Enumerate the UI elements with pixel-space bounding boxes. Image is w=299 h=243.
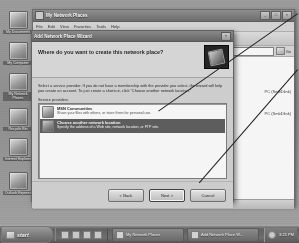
window-controls: _ □ × xyxy=(260,11,292,20)
menu-item-favorites[interactable]: Favorites xyxy=(74,24,91,29)
desktop-icon-my-network-places[interactable]: My Network Places xyxy=(3,73,33,101)
outlook-express-icon xyxy=(9,172,28,190)
start-button[interactable]: start xyxy=(1,226,53,243)
quick-launch-bar[interactable] xyxy=(55,228,108,241)
minimize-button[interactable]: _ xyxy=(260,11,270,20)
my-computer-icon xyxy=(9,42,28,60)
msn-butterfly-icon xyxy=(42,106,54,118)
menu-item-help[interactable]: Help xyxy=(111,24,120,29)
explorer-titlebar[interactable]: My Network Places _ □ × xyxy=(33,10,294,22)
next-button[interactable]: Next > xyxy=(149,189,185,202)
desktop-icon-recycle-bin[interactable]: Recycle Bin xyxy=(3,108,33,131)
go-button[interactable]: Go xyxy=(276,47,291,55)
quick-launch-icon[interactable] xyxy=(94,231,102,239)
my-network-places-icon xyxy=(9,73,28,91)
maximize-button[interactable]: □ xyxy=(271,11,281,20)
recycle-bin-icon xyxy=(9,108,28,126)
taskbar-button-label: My Network Places xyxy=(126,232,160,237)
quick-launch-icon[interactable] xyxy=(72,231,80,239)
quick-launch-icon[interactable] xyxy=(83,231,91,239)
menu-item-file[interactable]: File xyxy=(36,24,43,29)
taskbar-tasks: My Network Places Add Network Place W... xyxy=(112,228,264,242)
wizard-footer: < Back Next > Cancel xyxy=(32,181,233,208)
desktop-icon-internet-explorer[interactable]: Internet Explorer xyxy=(3,138,33,161)
windows-flag-icon xyxy=(6,231,15,239)
taskbar-clock[interactable]: 3:21 PM xyxy=(279,232,294,237)
wizard-banner xyxy=(204,45,229,69)
service-providers-label: Service providers: xyxy=(38,97,227,102)
menu-item-tools[interactable]: Tools xyxy=(96,24,106,29)
taskbar-button-my-network-places[interactable]: My Network Places xyxy=(112,228,184,242)
taskbar-button-label: Add Network Place W... xyxy=(201,232,243,237)
desktop-icon-my-computer[interactable]: My Computer xyxy=(3,42,33,65)
cancel-button[interactable]: Cancel xyxy=(190,189,226,202)
system-tray[interactable]: 3:21 PM xyxy=(264,228,297,242)
wizard-title: Add Network Place Wizard xyxy=(34,34,221,39)
wizard-icon xyxy=(191,231,199,239)
explorer-title: My Network Places xyxy=(46,13,258,18)
desktop-icon-label: My Computer xyxy=(3,61,33,65)
wizard-close-button[interactable]: × xyxy=(221,32,231,41)
list-item-choose-another-network-location[interactable]: Choose another network location Specify … xyxy=(40,119,225,133)
tray-icon[interactable] xyxy=(268,231,276,239)
wizard-body: Select a service provider. If you do not… xyxy=(32,78,233,181)
go-icon xyxy=(276,47,285,55)
desktop-icon-label: Outlook Express xyxy=(3,191,33,195)
explorer-window-icon xyxy=(35,11,44,20)
network-place-icon xyxy=(208,48,226,66)
menu-item-view[interactable]: View xyxy=(60,24,69,29)
screenshot-root: My Documents My Computer My Network Plac… xyxy=(0,0,299,243)
wizard-heading: Where do you want to create this network… xyxy=(38,49,227,55)
file-list-item[interactable]: PC (SmbDlink) xyxy=(265,111,291,116)
internet-explorer-icon xyxy=(9,138,28,156)
provider-subtitle: Specify the address of a Web site, netwo… xyxy=(57,125,223,130)
back-button[interactable]: < Back xyxy=(108,189,144,202)
go-label: Go xyxy=(286,49,291,54)
wizard-description: Select a service provider. If you do not… xyxy=(38,83,227,93)
taskbar-button-add-network-place-wizard[interactable]: Add Network Place W... xyxy=(187,228,259,242)
wizard-header: Where do you want to create this network… xyxy=(32,42,233,78)
wizard-titlebar[interactable]: Add Network Place Wizard × xyxy=(32,31,233,42)
network-folder-icon xyxy=(42,120,54,132)
desktop-icon-my-documents[interactable]: My Documents xyxy=(3,11,33,34)
desktop-icon-label: Internet Explorer xyxy=(3,157,33,161)
desktop-icon-label: Recycle Bin xyxy=(3,127,33,131)
start-label: start xyxy=(17,232,29,238)
menu-item-edit[interactable]: Edit xyxy=(48,24,55,29)
provider-subtitle: Share your files with others, or store t… xyxy=(57,111,223,116)
service-providers-list[interactable]: MSN Communities Share your files with ot… xyxy=(38,103,227,179)
list-item-msn-communities[interactable]: MSN Communities Share your files with ot… xyxy=(40,105,225,119)
taskbar[interactable]: start My Network Places Add Network Plac… xyxy=(0,225,299,243)
quick-launch-icon[interactable] xyxy=(61,231,69,239)
desktop-icon-outlook-express[interactable]: Outlook Express xyxy=(3,172,33,195)
desktop-icon-label: My Network Places xyxy=(3,92,33,101)
my-documents-icon xyxy=(9,11,28,29)
folder-icon xyxy=(116,231,124,239)
desktop-icon-label: My Documents xyxy=(3,30,33,34)
